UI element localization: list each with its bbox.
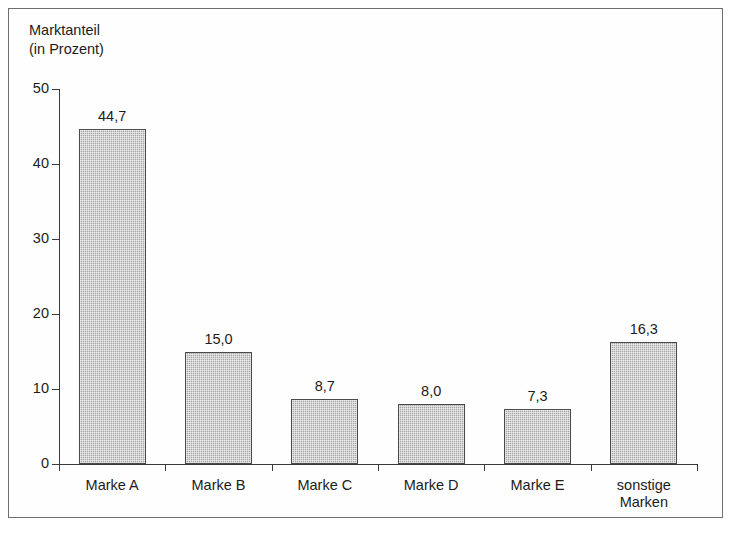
y-axis-tick-label-text: 0 xyxy=(13,456,49,471)
bar-value-label: 8,7 xyxy=(272,379,378,394)
bar-value-label: 7,3 xyxy=(484,389,590,404)
chart-title: Marktanteil (in Prozent) xyxy=(29,21,104,59)
bar-chart: Marktanteil (in Prozent) 01020304050 44,… xyxy=(9,9,724,519)
x-axis-category-label: Marke C xyxy=(272,477,378,494)
bar-value-label: 44,7 xyxy=(59,109,165,124)
y-axis-tick xyxy=(52,89,60,90)
y-axis-tick-label: 0 xyxy=(9,456,49,471)
y-axis-tick-label: 10 xyxy=(9,381,49,396)
bar xyxy=(185,352,252,465)
x-axis-category-label: Marke B xyxy=(165,477,271,494)
chart-title-line1: Marktanteil xyxy=(29,22,100,38)
x-axis-tick xyxy=(378,464,379,471)
y-axis-tick-label-text: 20 xyxy=(13,306,49,321)
bar-value-label: 8,0 xyxy=(378,384,484,399)
y-axis-tick-label: 50 xyxy=(9,81,49,96)
y-axis-tick xyxy=(52,314,60,315)
x-axis-category-label: Marke A xyxy=(59,477,165,494)
x-axis-tick xyxy=(484,464,485,471)
bar xyxy=(398,404,465,464)
y-axis-tick-label-text: 40 xyxy=(13,156,49,171)
bar-value-label: 16,3 xyxy=(591,322,697,337)
bar xyxy=(291,399,358,464)
x-axis-tick xyxy=(591,464,592,471)
x-axis-category-label: sonstige Marken xyxy=(591,477,697,511)
x-axis-category-label: Marke E xyxy=(484,477,590,494)
bar-value-label: 15,0 xyxy=(165,332,271,347)
chart-title-line2: (in Prozent) xyxy=(29,41,104,57)
y-axis-tick-label-text: 50 xyxy=(13,81,49,96)
x-axis-tick xyxy=(272,464,273,471)
y-axis-tick xyxy=(52,164,60,165)
y-axis-tick-label: 30 xyxy=(9,231,49,246)
y-axis-tick-label: 40 xyxy=(9,156,49,171)
x-axis-category-label: Marke D xyxy=(378,477,484,494)
bar xyxy=(79,129,146,464)
y-axis-tick xyxy=(52,389,60,390)
x-axis-tick xyxy=(59,464,60,471)
bar xyxy=(504,409,571,464)
bar xyxy=(610,342,677,464)
y-axis-tick xyxy=(52,239,60,240)
y-axis-tick-label-text: 10 xyxy=(13,381,49,396)
x-axis-tick xyxy=(697,464,698,471)
figure-frame: Marktanteil (in Prozent) 01020304050 44,… xyxy=(8,8,723,518)
y-axis-line xyxy=(59,89,60,464)
y-axis-tick-label: 20 xyxy=(9,306,49,321)
y-axis-tick-label-text: 30 xyxy=(13,231,49,246)
x-axis-tick xyxy=(165,464,166,471)
